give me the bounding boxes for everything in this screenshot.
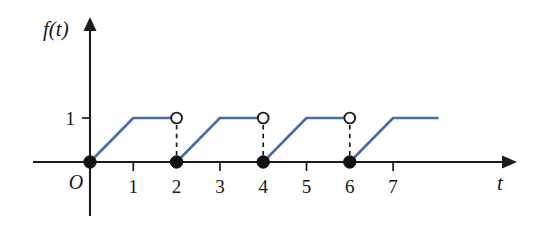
x-tick-label: 6 — [345, 176, 355, 197]
closed-endpoint-dot — [170, 156, 182, 168]
open-endpoint-circle — [258, 113, 269, 124]
x-tick-label: 1 — [129, 176, 139, 197]
x-tick-label: 2 — [172, 176, 182, 197]
open-endpoint-circle — [171, 113, 182, 124]
x-tick-label: 3 — [215, 176, 225, 197]
plot-background — [0, 0, 534, 247]
y-axis-label: f(t) — [43, 17, 69, 41]
open-endpoint-circle — [344, 113, 355, 124]
ramp-function-plot: t f(t) O 1 1234567 — [0, 0, 534, 247]
x-tick-label: 5 — [302, 176, 312, 197]
function-graph-figure: t f(t) O 1 1234567 — [0, 0, 534, 247]
x-tick-label: 4 — [258, 176, 268, 197]
closed-endpoint-dot — [257, 156, 269, 168]
closed-endpoint-dot — [344, 156, 356, 168]
origin-label: O — [69, 171, 83, 193]
closed-endpoint-dot — [84, 156, 96, 168]
x-tick-label: 7 — [388, 176, 398, 197]
y-tick-label: 1 — [66, 108, 76, 129]
